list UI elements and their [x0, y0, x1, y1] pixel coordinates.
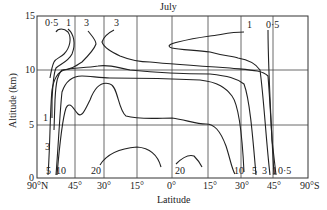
contour-label: 3: [114, 18, 119, 28]
x-tick-30s: 30°: [235, 181, 249, 191]
chart-title: July: [160, 2, 177, 12]
contour-label: 1: [43, 113, 48, 123]
x-tick-45n: 45°: [68, 181, 82, 191]
contour-label: 1: [272, 166, 277, 176]
contour-20-nh: [100, 147, 161, 167]
contour-label: 20: [91, 166, 101, 176]
contour-label: 0·5: [278, 166, 291, 176]
x-tick-15s: 15°: [203, 181, 217, 191]
x-tick-0: 0°: [167, 181, 176, 191]
contour-label: 10: [56, 166, 66, 176]
contour-label: 5: [252, 166, 257, 176]
contour-label: 20: [175, 166, 185, 176]
contour-label: 1: [66, 18, 71, 28]
y-axis-label: Altitude (km): [8, 73, 18, 128]
contour-label: 1: [247, 20, 252, 30]
contour-10: [56, 76, 244, 175]
y-tick-5: 5: [29, 120, 34, 130]
contour-lines: [48, 29, 276, 175]
contour-label: 0·5: [266, 20, 279, 30]
x-tick-30n: 30°: [97, 181, 111, 191]
contour-label: 3: [84, 18, 89, 28]
y-tick-15: 15: [25, 11, 35, 21]
contour-label: 0·5: [45, 18, 58, 28]
contour-label: 10: [234, 166, 244, 176]
y-tick-10: 10: [25, 65, 35, 75]
contour-5: [48, 65, 256, 175]
contour-label: 3: [45, 142, 50, 152]
contour-0-5-sh: [268, 30, 276, 175]
x-tick-15n: 15°: [130, 181, 144, 191]
x-axis-label: Latitude: [157, 195, 190, 205]
contour-label: 5: [46, 166, 51, 176]
contour-1-sh: [169, 32, 270, 175]
contour-0-5-nh: [50, 29, 70, 78]
contour-label: 3: [262, 166, 267, 176]
x-tick-90s: 90°S: [300, 181, 320, 191]
x-tick-90n: 90°N: [27, 181, 48, 191]
contour-chart: [0, 0, 327, 210]
x-tick-45s: 45°: [267, 181, 281, 191]
